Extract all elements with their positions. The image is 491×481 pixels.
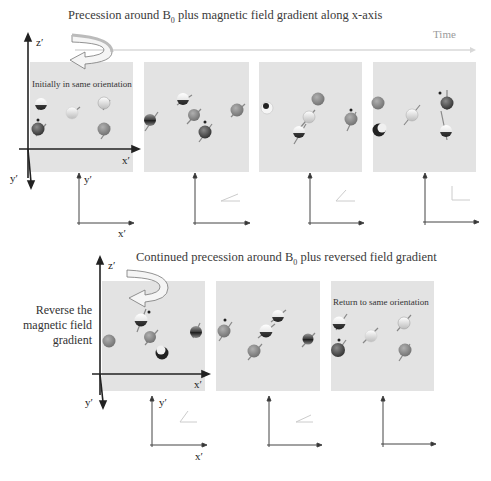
bottom-diagram — [0, 0, 491, 481]
reverse-precession-arrow-icon — [127, 270, 168, 307]
bottom-mini-y-label: y′ — [159, 396, 167, 408]
bottom-x-axis-label: x′ — [194, 378, 202, 390]
bottom-panel-1-spins — [103, 309, 203, 360]
bottom-z-axis-label: z′ — [108, 259, 115, 271]
bottom-panel-3-spins — [331, 314, 412, 361]
bottom-panel-2-spins — [218, 310, 316, 360]
bottom-y-axis-label: y′ — [85, 396, 93, 408]
bottom-xy-axes-2 — [267, 396, 322, 447]
bottom-mini-x-label: x′ — [195, 450, 203, 462]
bottom-xy-axes-3 — [381, 396, 436, 447]
